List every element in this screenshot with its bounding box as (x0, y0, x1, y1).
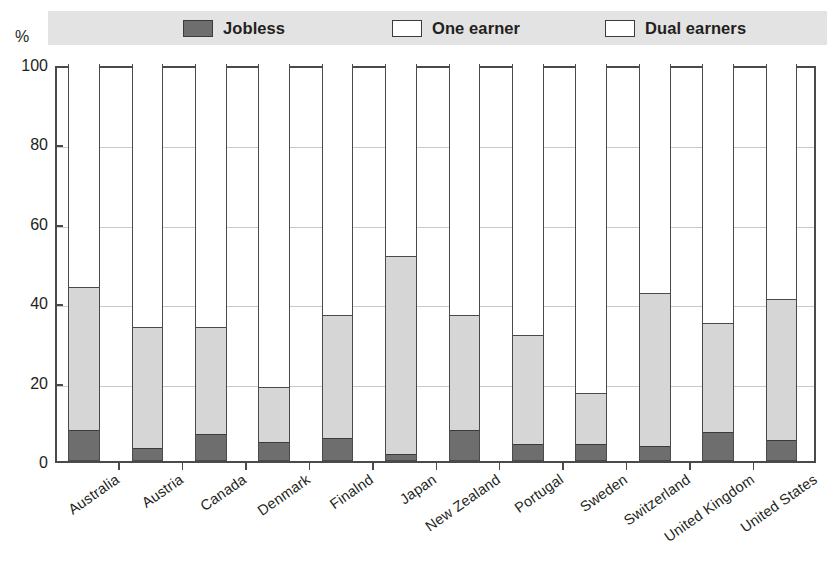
stacked-bar-chart: 020406080100 AustraliaAustriaCanadaDenma… (0, 0, 831, 577)
bar-group (258, 68, 290, 461)
y-tick-mark-40 (55, 304, 63, 306)
y-tick-label-20: 20 (4, 375, 48, 393)
x-axis-label-sweden: Sweden (577, 471, 630, 515)
bar-segment-jobless[interactable] (576, 444, 606, 460)
plot-inner (57, 68, 814, 461)
y-tick-label-40: 40 (4, 295, 48, 313)
stacked-bar[interactable] (702, 64, 734, 461)
x-axis-label-portugal: Portugal (512, 471, 567, 516)
bar-group (575, 68, 607, 461)
bar-segment-one-earner[interactable] (133, 327, 163, 448)
bar-segment-jobless[interactable] (133, 448, 163, 460)
bar-segment-dual-earners[interactable] (196, 63, 226, 327)
y-axis-tick-labels: 020406080100 (0, 66, 48, 463)
y-tick-mark-20 (55, 384, 63, 386)
bar-segment-one-earner[interactable] (767, 299, 797, 440)
stacked-bar[interactable] (512, 64, 544, 461)
bar-group (195, 68, 227, 461)
x-tick-mark (436, 463, 438, 470)
bar-segment-one-earner[interactable] (703, 323, 733, 432)
x-axis-label-japan: Japan (397, 471, 439, 507)
bar-segment-dual-earners[interactable] (259, 63, 289, 387)
bar-segment-dual-earners[interactable] (640, 63, 670, 293)
bar-segment-jobless[interactable] (450, 430, 480, 460)
x-tick-mark (182, 463, 184, 470)
bar-segment-dual-earners[interactable] (703, 63, 733, 323)
bar-segment-dual-earners[interactable] (133, 63, 163, 327)
x-tick-mark (372, 463, 374, 470)
bar-segment-dual-earners[interactable] (323, 63, 353, 315)
y-tick-mark-60 (55, 225, 63, 227)
stacked-bar[interactable] (195, 64, 227, 461)
bar-segment-one-earner[interactable] (640, 293, 670, 446)
bar-segment-one-earner[interactable] (69, 287, 99, 430)
bar-group (449, 68, 481, 461)
bar-segment-jobless[interactable] (259, 442, 289, 460)
x-tick-mark (689, 463, 691, 470)
bar-segment-jobless[interactable] (196, 434, 226, 460)
bar-segment-jobless[interactable] (323, 438, 353, 460)
bar-segment-one-earner[interactable] (513, 335, 543, 444)
bar-group (322, 68, 354, 461)
bar-segment-one-earner[interactable] (196, 327, 226, 434)
gridline-80 (57, 147, 814, 148)
bar-segment-one-earner[interactable] (259, 387, 289, 443)
bar-segment-jobless[interactable] (703, 432, 733, 460)
x-axis-label-denmark: Denmark (254, 471, 313, 519)
bar-segment-dual-earners[interactable] (386, 63, 416, 256)
x-tick-mark (245, 463, 247, 470)
bar-segment-one-earner[interactable] (450, 315, 480, 430)
stacked-bar[interactable] (322, 64, 354, 461)
stacked-bar[interactable] (385, 64, 417, 461)
bar-segment-dual-earners[interactable] (513, 63, 543, 335)
plot-area (55, 66, 816, 463)
bar-group (639, 68, 671, 461)
stacked-bar[interactable] (258, 64, 290, 461)
bar-segment-one-earner[interactable] (386, 256, 416, 455)
gridline-20 (57, 386, 814, 387)
y-tick-mark-80 (55, 145, 63, 147)
bar-segment-jobless[interactable] (386, 454, 416, 460)
stacked-bar[interactable] (68, 64, 100, 461)
x-axis-label-australia: Australia (66, 471, 123, 517)
x-tick-mark (118, 463, 120, 470)
bar-segment-jobless[interactable] (767, 440, 797, 460)
bar-segment-one-earner[interactable] (323, 315, 353, 438)
bar-segment-dual-earners[interactable] (767, 63, 797, 299)
x-tick-mark (562, 463, 564, 470)
x-axis-label-finalnd: Finalnd (327, 471, 376, 512)
bar-group (385, 68, 417, 461)
gridline-60 (57, 227, 814, 228)
x-tick-mark (499, 463, 501, 470)
y-tick-label-0: 0 (4, 454, 48, 472)
stacked-bar[interactable] (575, 64, 607, 461)
bar-segment-dual-earners[interactable] (450, 63, 480, 315)
stacked-bar[interactable] (132, 64, 164, 461)
x-axis-label-canada: Canada (198, 471, 250, 514)
bar-segment-jobless[interactable] (513, 444, 543, 460)
y-tick-label-60: 60 (4, 216, 48, 234)
stacked-bar[interactable] (766, 64, 798, 461)
x-axis-label-austria: Austria (139, 471, 186, 511)
bar-group (512, 68, 544, 461)
x-tick-mark (309, 463, 311, 470)
bar-segment-dual-earners[interactable] (576, 63, 606, 393)
bar-segment-jobless[interactable] (640, 446, 670, 460)
gridline-40 (57, 306, 814, 307)
stacked-bar[interactable] (639, 64, 671, 461)
x-tick-mark (753, 463, 755, 470)
stacked-bar[interactable] (449, 64, 481, 461)
bar-group (132, 68, 164, 461)
bar-segment-one-earner[interactable] (576, 393, 606, 445)
bar-segment-dual-earners[interactable] (69, 63, 99, 287)
y-tick-label-100: 100 (4, 57, 48, 75)
y-tick-label-80: 80 (4, 136, 48, 154)
bar-segment-jobless[interactable] (69, 430, 99, 460)
bar-group (702, 68, 734, 461)
bar-group (766, 68, 798, 461)
bar-group (68, 68, 100, 461)
x-tick-mark (626, 463, 628, 470)
